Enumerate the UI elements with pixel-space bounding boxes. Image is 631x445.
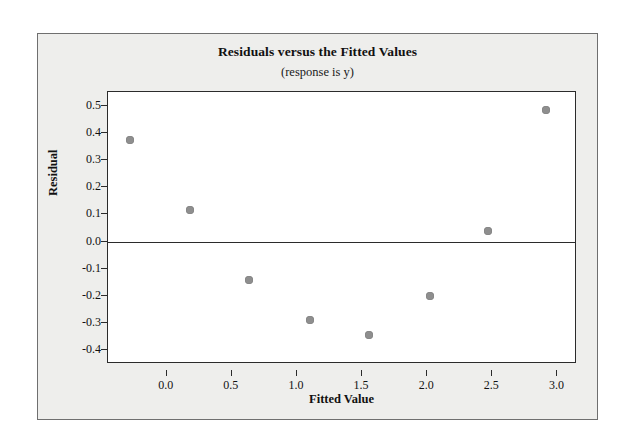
data-point — [245, 276, 253, 284]
plot-area — [107, 91, 576, 363]
x-tick-mark — [556, 370, 557, 376]
x-tick-label: 2.0 — [419, 378, 434, 393]
y-tick-label: -0.4 — [82, 342, 101, 357]
zero-reference-line — [108, 242, 575, 243]
data-point — [542, 106, 550, 114]
data-point — [484, 227, 492, 235]
x-tick-mark — [166, 370, 167, 376]
x-axis-title: Fitted Value — [107, 392, 576, 407]
chart-page: Residuals versus the Fitted Values (resp… — [0, 0, 631, 445]
y-tick-label: 0.1 — [86, 206, 101, 221]
y-tick-label: 0.3 — [86, 152, 101, 167]
x-tick-label: 3.0 — [549, 378, 564, 393]
y-tick-label: 0.5 — [86, 97, 101, 112]
x-tick-mark — [361, 370, 362, 376]
x-tick-label: 1.5 — [354, 378, 369, 393]
chart-title: Residuals versus the Fitted Values — [37, 44, 598, 60]
y-tick-label: 0.0 — [86, 233, 101, 248]
x-tick-mark — [231, 370, 232, 376]
x-tick-mark — [491, 370, 492, 376]
y-axis-tick-labels: 0.50.40.30.20.10.0-0.1-0.2-0.3-0.4 — [55, 91, 101, 363]
y-tick-label: 0.4 — [86, 124, 101, 139]
y-tick-label: -0.1 — [82, 260, 101, 275]
plot-inner — [108, 92, 575, 362]
data-point — [126, 136, 134, 144]
y-tick-label: 0.2 — [86, 179, 101, 194]
x-tick-mark — [426, 370, 427, 376]
x-tick-label: 0.0 — [158, 378, 173, 393]
y-tick-label: -0.2 — [82, 288, 101, 303]
x-tick-label: 2.5 — [484, 378, 499, 393]
y-tick-label: -0.3 — [82, 315, 101, 330]
x-tick-label: 0.5 — [223, 378, 238, 393]
chart-subtitle: (response is y) — [37, 65, 598, 80]
x-axis-tick-labels: 0.00.51.01.52.02.53.0 — [107, 370, 576, 388]
data-point — [365, 331, 373, 339]
data-point — [426, 292, 434, 300]
x-tick-mark — [296, 370, 297, 376]
x-tick-label: 1.0 — [288, 378, 303, 393]
data-point — [306, 316, 314, 324]
data-point — [186, 206, 194, 214]
